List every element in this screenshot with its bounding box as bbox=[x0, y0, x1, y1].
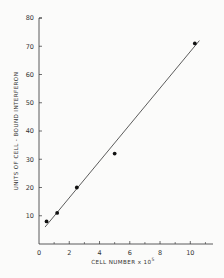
chart: 1020304050607080 0246810 CELL NUMBER x 1… bbox=[0, 0, 224, 278]
x-axis-ticks: 0246810 bbox=[37, 241, 206, 257]
y-tick-label: 60 bbox=[26, 71, 34, 79]
x-tick-label: 8 bbox=[158, 249, 162, 257]
x-tick-label: 4 bbox=[97, 249, 101, 257]
x-axis-label: CELL NUMBER x 105 bbox=[91, 257, 154, 265]
plot-area bbox=[45, 41, 200, 227]
axes bbox=[39, 18, 213, 244]
y-axis-ticks: 1020304050607080 bbox=[26, 14, 42, 220]
x-tick-label: 10 bbox=[186, 249, 194, 257]
x-tick-label: 6 bbox=[128, 249, 132, 257]
data-point bbox=[193, 42, 197, 46]
y-axis-label: UNITS OF CELL - BOUND INTERFERON bbox=[13, 72, 19, 191]
y-tick-label: 40 bbox=[26, 127, 34, 135]
data-point bbox=[113, 152, 117, 156]
y-tick-label: 30 bbox=[26, 156, 34, 164]
data-point bbox=[75, 186, 79, 190]
data-point bbox=[45, 220, 49, 224]
data-point bbox=[55, 211, 59, 215]
y-tick-label: 80 bbox=[26, 14, 34, 22]
y-tick-label: 20 bbox=[26, 184, 34, 192]
y-tick-label: 70 bbox=[26, 43, 34, 51]
fit-line bbox=[45, 41, 199, 227]
x-tick-label: 2 bbox=[67, 249, 71, 257]
x-tick-label: 0 bbox=[37, 249, 41, 257]
y-tick-label: 50 bbox=[26, 99, 34, 107]
y-tick-label: 10 bbox=[26, 212, 34, 220]
